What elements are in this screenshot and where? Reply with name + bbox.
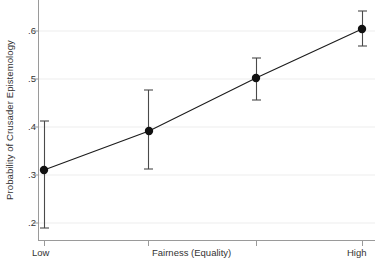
y-axis-spine: [33, 0, 39, 241]
gridlines: [38, 31, 375, 223]
x-axis-spine: [38, 241, 375, 247]
x-axis-title: Fairness (Equality): [152, 247, 231, 258]
series-line: [44, 29, 362, 170]
data-point-marker-high: [358, 25, 366, 33]
data-point-marker-midlow: [145, 127, 153, 135]
plot-area: [0, 0, 375, 264]
x-tick-label-high: High: [347, 247, 367, 258]
data-point-marker-low: [40, 166, 48, 174]
data-point-marker-midhigh: [252, 74, 260, 82]
x-tick-label-low: Low: [32, 247, 49, 258]
chart-container: Probability of Crusader Epistemology .6 …: [0, 0, 375, 264]
